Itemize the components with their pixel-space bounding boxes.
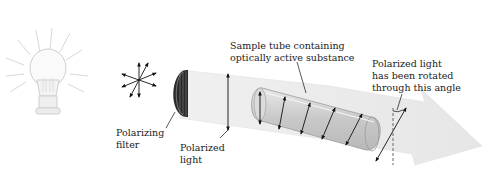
disc-filter-icon (173, 70, 188, 117)
polarized-light-label: Polarized light (180, 142, 225, 166)
rotated-light-label: Polarized light has been rotated through… (372, 58, 461, 94)
multidirectional-arrows-icon (122, 63, 156, 97)
light-bulb-icon (6, 28, 88, 114)
sample-tube-label: Sample tube containing optically active … (230, 40, 354, 64)
polarizing-filter-label: Polarizing filter (116, 127, 164, 151)
